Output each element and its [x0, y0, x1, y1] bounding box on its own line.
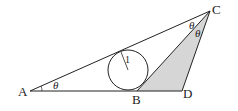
angle-label-c-lower: θ: [195, 27, 201, 39]
point-label-b: B: [132, 92, 141, 107]
point-label-d: D: [183, 86, 192, 101]
point-label-c: C: [212, 2, 221, 17]
point-label-a: A: [18, 84, 28, 99]
geometry-diagram: A B C D 1 θ θ θ: [0, 0, 238, 111]
angle-arc-a: [41, 86, 42, 91]
radius-label: 1: [125, 54, 130, 65]
angle-label-a: θ: [53, 79, 59, 91]
